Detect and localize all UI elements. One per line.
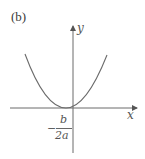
vertex-label: − b 2a (47, 114, 77, 148)
vertex-label-numerator: b (60, 113, 67, 126)
parabola-figure: (b) y x − b 2a (0, 0, 145, 159)
y-axis-label: y (77, 21, 84, 35)
panel-label: (b) (11, 9, 26, 25)
x-axis-label: x (127, 108, 134, 122)
vertex-label-denominator: 2a (55, 129, 69, 142)
parabola-curve (25, 54, 107, 108)
